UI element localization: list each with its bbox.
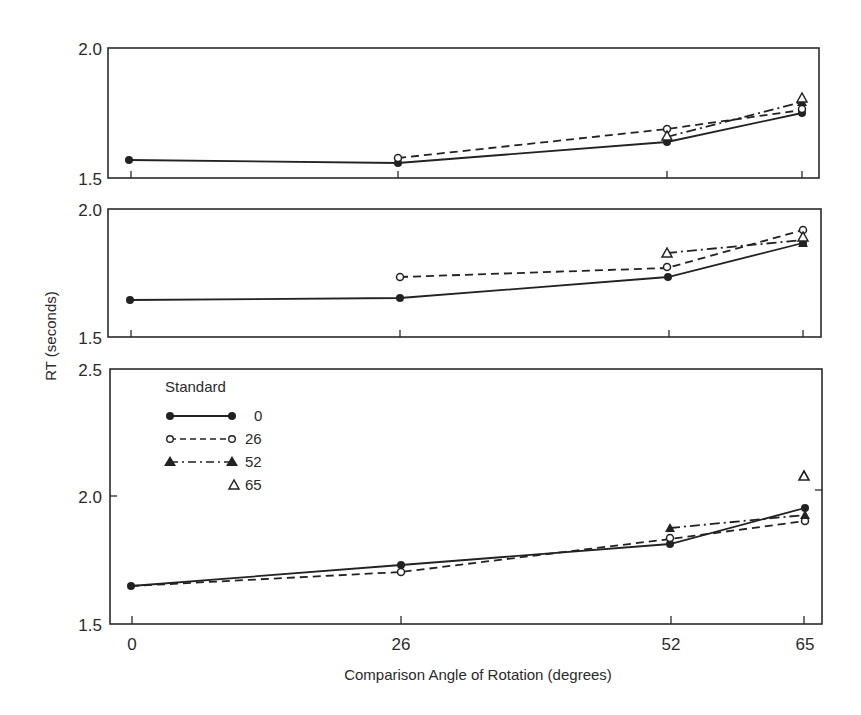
panel-middle-series-26 — [397, 227, 807, 281]
panel-top-ytick-1.5: 1.5 — [78, 170, 102, 189]
legend-label-0: 0 — [254, 407, 262, 424]
panel-top: 2.0 1.5 — [78, 40, 819, 189]
panel-middle-frame — [108, 209, 821, 337]
x-axis-title: Comparison Angle of Rotation (degrees) — [344, 666, 612, 683]
panel-middle-ytick-2.0: 2.0 — [78, 201, 102, 220]
legend-label-26: 26 — [245, 430, 262, 447]
xtick-label-0: 0 — [127, 635, 136, 654]
y-axis-title: RT (seconds) — [42, 291, 59, 380]
legend-entry-65: 65 — [229, 476, 262, 493]
panel-bottom-ytick-2.5: 2.5 — [78, 361, 102, 380]
panel-middle-ytick-1.5: 1.5 — [78, 329, 102, 348]
panel-middle: 2.0 1.5 — [78, 201, 821, 348]
xtick-label-52: 52 — [662, 635, 681, 654]
panel-bottom-ytick-1.5: 1.5 — [78, 616, 102, 635]
legend-title: Standard — [165, 378, 226, 395]
panel-bottom-series-0 — [127, 504, 809, 590]
legend: Standard 0 26 52 65 — [164, 378, 262, 493]
panel-bottom-ytick-2.0: 2.0 — [78, 488, 102, 507]
panel-bottom: 2.5 2.0 1.5 0 26 52 65 — [78, 361, 822, 654]
panel-top-xticks — [131, 171, 802, 178]
panel-bottom-series-65 — [799, 471, 809, 480]
legend-label-52: 52 — [245, 453, 262, 470]
panel-middle-series-65 — [662, 232, 808, 257]
panel-bottom-xticks — [132, 616, 804, 624]
panel-middle-series-0 — [126, 239, 807, 304]
legend-label-65: 65 — [245, 476, 262, 493]
panel-middle-xticks — [131, 330, 803, 337]
panel-top-series-0 — [125, 109, 806, 167]
legend-entry-0: 0 — [166, 407, 262, 424]
legend-entry-26: 26 — [167, 430, 262, 447]
legend-entry-52: 52 — [164, 453, 262, 470]
panel-top-series-26 — [395, 106, 806, 162]
panel-bottom-series-26 — [131, 518, 809, 587]
panel-top-ytick-2.0: 2.0 — [78, 40, 102, 59]
xtick-label-26: 26 — [392, 635, 411, 654]
rt-figure: 2.0 1.5 — [0, 0, 861, 715]
panel-bottom-frame — [110, 369, 822, 624]
xtick-label-65: 65 — [796, 635, 815, 654]
